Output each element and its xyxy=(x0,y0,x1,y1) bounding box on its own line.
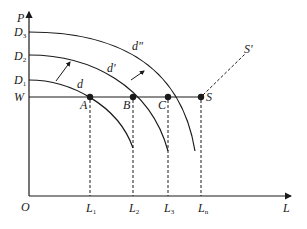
demand-curve-d-double-prime xyxy=(29,32,195,151)
point-label-B: B xyxy=(123,98,131,112)
point-A xyxy=(87,94,93,100)
x-tick-L1: L1 xyxy=(85,201,97,216)
y-tick-D3: D3 xyxy=(13,25,27,40)
point-label-A: A xyxy=(79,98,88,112)
x-tick-Ln: Ln xyxy=(197,201,209,216)
x-tick-L2: L2 xyxy=(128,201,140,216)
supply-line xyxy=(203,54,245,95)
shift-arrow-2 xyxy=(131,71,144,80)
labor-demand-diagram: P L O D3 D2 D1 W L1 L2 L3 Ln d d' d" A B… xyxy=(0,0,307,229)
point-label-C: C xyxy=(158,98,167,112)
curve-label-d-prime: d' xyxy=(107,61,116,75)
curve-label-d-double-prime: d" xyxy=(132,39,144,53)
point-label-S: S xyxy=(206,90,212,104)
point-S xyxy=(198,94,204,100)
y-axis-label: P xyxy=(16,11,25,25)
curve-label-d: d xyxy=(77,77,84,91)
shift-arrow-1 xyxy=(56,62,70,81)
origin-label: O xyxy=(21,200,30,214)
y-tick-D2: D2 xyxy=(13,49,27,64)
x-tick-L3: L3 xyxy=(163,201,175,216)
y-tick-D1: D1 xyxy=(13,73,27,88)
point-B xyxy=(130,94,136,100)
supply-label-S-prime: S' xyxy=(244,42,253,56)
x-axis-label: L xyxy=(282,201,290,215)
y-tick-W: W xyxy=(14,90,25,104)
